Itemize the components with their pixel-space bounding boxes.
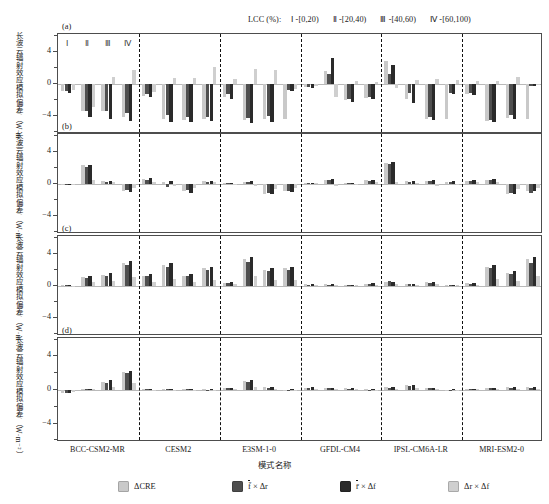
- bar: [415, 388, 418, 390]
- bar: [233, 284, 236, 286]
- bar: [72, 84, 75, 90]
- bar-group: [341, 236, 361, 334]
- bar: [355, 285, 358, 286]
- y-tick-4: 4: [23, 355, 57, 356]
- bar-group: [280, 134, 300, 232]
- bar: [476, 389, 479, 390]
- panel-c: [57, 235, 542, 335]
- bar: [270, 84, 273, 122]
- bar-group: [179, 34, 199, 132]
- y-tick-label: −4: [42, 109, 51, 120]
- y-tick-minor: [23, 339, 57, 340]
- bar-group: [523, 134, 542, 232]
- bar: [355, 389, 358, 390]
- bar: [152, 390, 155, 391]
- x-label-BCC-CSM2-MR: BCC-CSM2-MR: [57, 445, 138, 454]
- bar: [496, 389, 499, 390]
- x-axis-title: 模式名称: [0, 458, 549, 470]
- lcc-class-tick-3: Ⅲ: [102, 39, 114, 48]
- bar-group: [301, 338, 321, 440]
- bar-group: [179, 134, 199, 232]
- y-tick-minor: [23, 333, 57, 334]
- y-tick-minor: [23, 301, 57, 302]
- legend-item-2: f̄ × Δr: [232, 481, 268, 492]
- bar-group: [179, 236, 199, 334]
- bar-group: [321, 338, 341, 440]
- bar: [254, 69, 257, 84]
- bar-group: [462, 34, 482, 132]
- legend-item-1: ΔCRE: [118, 481, 156, 492]
- bar-group: [301, 236, 321, 334]
- bar-group: [301, 34, 321, 132]
- y-tick-0: 0: [23, 83, 57, 84]
- y-tick-minor: [23, 237, 57, 238]
- bar: [129, 84, 132, 121]
- bar: [536, 184, 539, 188]
- bar: [536, 84, 539, 85]
- bar-group: [58, 34, 78, 132]
- bar-group: [523, 34, 542, 132]
- bar: [314, 285, 317, 286]
- bar-group: [503, 236, 523, 334]
- bar: [173, 78, 176, 84]
- bar-group: [422, 236, 442, 334]
- bar-group: [159, 236, 179, 334]
- bar: [415, 80, 418, 84]
- panel-b: [57, 133, 542, 233]
- bar-group: [139, 34, 159, 132]
- legend-swatch: [448, 481, 459, 492]
- bar: [456, 80, 459, 84]
- bar-group: [402, 338, 422, 440]
- bar-group: [220, 134, 240, 232]
- bar: [112, 77, 115, 84]
- y-tick-4: 4: [23, 151, 57, 152]
- y-tick-minor: [23, 231, 57, 232]
- bar-group: [139, 236, 159, 334]
- plot-area: [57, 133, 542, 233]
- plot-area: [57, 337, 542, 441]
- bar-group: [321, 236, 341, 334]
- bar-group: [503, 34, 523, 132]
- bar-group: [280, 236, 300, 334]
- bar: [274, 280, 277, 286]
- bar: [375, 82, 378, 84]
- bar-group: [381, 236, 401, 334]
- bar: [415, 285, 418, 286]
- bar-group: [482, 34, 502, 132]
- bar: [250, 84, 253, 123]
- bar-group: [523, 338, 542, 440]
- bar-group: [442, 34, 462, 132]
- bar-group: [98, 338, 118, 440]
- x-label-E3SM-1-0: E3SM-1-0: [219, 445, 300, 454]
- bar: [435, 184, 438, 186]
- y-tick-label: 4: [47, 247, 51, 258]
- bar-group: [98, 236, 118, 334]
- y-tick--4: −4: [23, 317, 57, 318]
- y-tick-minor: [23, 269, 57, 270]
- legend-swatch: [232, 481, 243, 492]
- bar: [334, 184, 337, 186]
- bar: [432, 84, 435, 120]
- bar-group: [402, 236, 422, 334]
- bar-group: [78, 34, 98, 132]
- bar-group: [159, 338, 179, 440]
- bar: [193, 184, 196, 188]
- bar: [435, 284, 438, 286]
- bar: [173, 184, 176, 186]
- bar-group: [260, 34, 280, 132]
- panel-a: [57, 33, 542, 133]
- bar-group: [361, 236, 381, 334]
- bar: [152, 282, 155, 286]
- bar: [72, 286, 75, 287]
- bar: [456, 390, 459, 391]
- bar-group: [58, 236, 78, 334]
- bar: [496, 279, 499, 286]
- bar-group: [442, 338, 462, 440]
- bar: [193, 390, 196, 391]
- bar-group: [462, 338, 482, 440]
- bar-group: [240, 34, 260, 132]
- y-tick-minor: [23, 439, 57, 440]
- bar: [294, 390, 297, 391]
- x-label-MRI-ESM2-0: MRI-ESM2-0: [461, 445, 542, 454]
- bar-group: [58, 134, 78, 232]
